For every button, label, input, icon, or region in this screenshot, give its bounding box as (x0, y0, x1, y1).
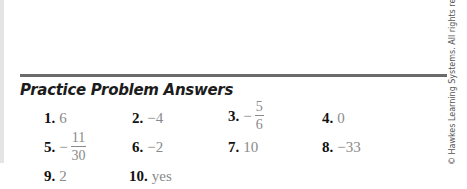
section-heading: Practice Problem Answers (20, 81, 233, 99)
fraction-denominator: 30 (71, 147, 85, 163)
answer-8: 8. −33 (322, 139, 361, 156)
answer-5: 5. − 11 30 (44, 131, 86, 163)
copyright-notice: © Hawkes Learning Systems. All rights re… (448, 0, 457, 165)
section-divider (20, 74, 447, 77)
answer-6: 6. −2 (132, 139, 163, 156)
answer-value: yes (152, 168, 172, 185)
answer-number: 10. (129, 168, 148, 185)
fraction-numerator: 5 (255, 100, 264, 116)
answer-value: −2 (147, 139, 163, 156)
answer-value: 2 (59, 168, 67, 185)
answer-value: 0 (337, 110, 345, 127)
answer-1: 1. 6 (44, 110, 67, 127)
fraction-denominator: 6 (256, 116, 263, 132)
answer-number: 8. (322, 139, 333, 156)
answer-value: 10 (243, 139, 258, 156)
answer-4: 4. 0 (322, 110, 345, 127)
fraction-numerator: 11 (71, 131, 86, 147)
answer-7: 7. 10 (228, 139, 258, 156)
answer-9: 9. 2 (44, 168, 67, 185)
answer-value: −33 (337, 139, 360, 156)
answer-value: −4 (147, 110, 163, 127)
answer-number: 2. (132, 110, 143, 127)
answer-sign: − (59, 139, 67, 156)
answer-10: 10. yes (129, 168, 172, 185)
answer-number: 6. (132, 139, 143, 156)
answer-value: 6 (59, 110, 67, 127)
answer-sign: − (243, 108, 251, 125)
answer-number: 9. (44, 168, 55, 185)
answer-number: 7. (228, 139, 239, 156)
answer-number: 1. (44, 110, 55, 127)
answer-number: 4. (322, 110, 333, 127)
answer-number: 3. (228, 108, 239, 125)
answer-2: 2. −4 (132, 110, 163, 127)
page-edge-strip (0, 0, 4, 163)
answer-3: 3. − 5 6 (228, 100, 264, 132)
fraction: 11 30 (71, 131, 86, 163)
answer-number: 5. (44, 139, 55, 156)
fraction: 5 6 (255, 100, 264, 132)
